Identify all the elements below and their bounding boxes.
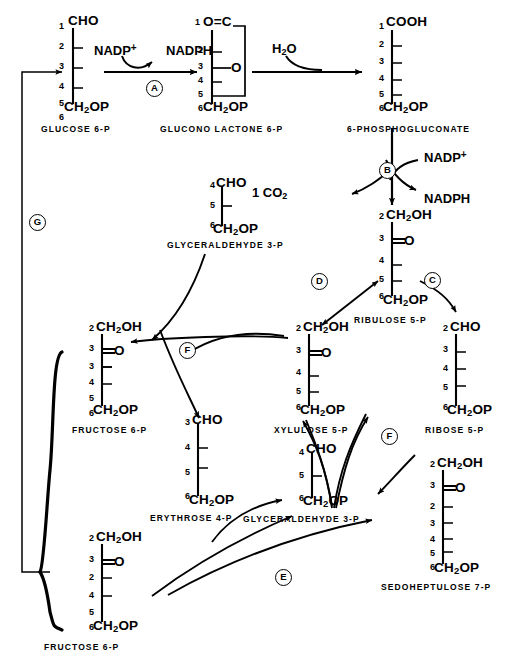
formula-top: CHO bbox=[216, 176, 247, 190]
carbon-number: 5 bbox=[82, 394, 94, 403]
carbon-number: 3 bbox=[82, 344, 94, 353]
carbon-number: 5 bbox=[289, 387, 301, 396]
carbon-number: 3 bbox=[372, 57, 384, 66]
ring-oxygen: O bbox=[231, 61, 242, 75]
carbon-number: 5 bbox=[52, 99, 64, 108]
carbon-number: 4 bbox=[178, 443, 190, 452]
carbon-number: 6 bbox=[52, 113, 64, 122]
carbon-number: 3 bbox=[289, 346, 301, 355]
carbon-number: 5 bbox=[372, 90, 384, 99]
carbon-number: 2 bbox=[372, 40, 384, 49]
carbon-number: 6 bbox=[292, 494, 304, 503]
carbon-number: 2 bbox=[82, 534, 94, 543]
carbon-number: 2 bbox=[82, 324, 94, 333]
formula-bottom: CH2OP bbox=[189, 493, 234, 507]
molecule-label: FRUCTOSE 6-P bbox=[72, 426, 147, 435]
molecule-label: 6-PHOSPHOGLUCONATE bbox=[347, 125, 470, 134]
carbon-number: 5 bbox=[82, 608, 94, 617]
carbon-number: 4 bbox=[372, 74, 384, 83]
carbon-number: 1 bbox=[52, 22, 64, 31]
carbon-number: 6 bbox=[372, 292, 384, 301]
keto-oxygen: O bbox=[114, 555, 125, 569]
enzyme-marker-b[interactable]: B bbox=[379, 162, 396, 179]
carbon-number: 6 bbox=[203, 221, 215, 230]
keto-oxygen: O bbox=[404, 234, 415, 248]
carbon-number: 3 bbox=[372, 234, 384, 243]
carbon-number: 3 bbox=[423, 519, 435, 528]
molecule-label: GLUCOSE 6-P bbox=[41, 125, 111, 134]
molecule-label: GLUCONO LACTONE 6-P bbox=[160, 125, 283, 134]
carbon-number: 5 bbox=[191, 90, 203, 99]
carbon-number: 4 bbox=[82, 591, 94, 600]
cofactor-nadph-a: NADPH bbox=[166, 44, 212, 57]
carbon-number: 5 bbox=[178, 468, 190, 477]
carbon-number: 6 bbox=[372, 104, 384, 113]
formula-bottom: CH2OP bbox=[303, 494, 348, 508]
carbon-number: 4 bbox=[423, 535, 435, 544]
carbon-number: 4 bbox=[292, 448, 304, 457]
carbon-number: 6 bbox=[82, 623, 94, 632]
carbon-number: 1 bbox=[372, 22, 384, 31]
keto-oxygen: O bbox=[114, 344, 125, 358]
enzyme-marker-f-lower[interactable]: F bbox=[381, 428, 398, 445]
formula-top: CH2OH bbox=[386, 208, 432, 222]
carbon-number: 2 bbox=[52, 42, 64, 51]
carbon-number: 5 bbox=[436, 383, 448, 392]
molecule-label: GLYCERALDEHYDE 3-P bbox=[243, 515, 360, 524]
formula-top: O=C bbox=[203, 15, 232, 29]
carbon-number: 2 bbox=[82, 573, 94, 582]
formula-bottom: CH2OP bbox=[300, 403, 345, 417]
formula-bottom: CH2OP bbox=[93, 619, 138, 633]
formula-top: CH2OH bbox=[96, 320, 142, 334]
carbon-number: 5 bbox=[372, 275, 384, 284]
formula-top: COOH bbox=[386, 15, 427, 29]
keto-oxygen: O bbox=[455, 481, 466, 495]
enzyme-marker-g[interactable]: G bbox=[29, 214, 46, 231]
formula-bottom: CH2OP bbox=[434, 561, 479, 575]
carbon-number: 6 bbox=[82, 409, 94, 418]
molecule-label: RIBOSE 5-P bbox=[425, 426, 484, 435]
formula-top: CHO bbox=[450, 320, 481, 334]
formula-bottom: CH2OP bbox=[213, 222, 258, 236]
formula-bottom: CH2OP bbox=[203, 100, 248, 114]
formula-top: CH2OH bbox=[96, 530, 142, 544]
molecule-label: FRUCTOSE 6-P bbox=[44, 643, 119, 652]
formula-top: CH2OH bbox=[437, 456, 483, 470]
carbon-number: 6 bbox=[423, 563, 435, 572]
carbon-number: 4 bbox=[372, 256, 384, 265]
molecule-label: GLYCERALDEHYDE 3-P bbox=[167, 241, 284, 250]
carbon-number: 3 bbox=[191, 62, 203, 71]
enzyme-marker-e[interactable]: E bbox=[275, 569, 292, 586]
cofactor-nadp-plus-a: NADP+ bbox=[94, 44, 137, 57]
molecule-label: XYLULOSE 5-P bbox=[274, 426, 349, 435]
formula-top: CHO bbox=[192, 413, 223, 427]
carbon-number: 4 bbox=[52, 82, 64, 91]
cofactor-nadp-plus-b: NADP+ bbox=[424, 151, 467, 164]
carbon-number: 4 bbox=[436, 364, 448, 373]
keto-oxygen: O bbox=[321, 346, 332, 360]
carbon-number: 2 bbox=[289, 324, 301, 333]
carbon-number: 5 bbox=[203, 201, 215, 210]
formula-bottom: CH2OP bbox=[64, 100, 109, 114]
enzyme-marker-d[interactable]: D bbox=[311, 273, 328, 290]
carbon-number: 4 bbox=[203, 181, 215, 190]
carbon-number: 1 bbox=[188, 18, 200, 27]
formula-bottom: CH2OP bbox=[383, 100, 428, 114]
cofactor-nadph-b: NADPH bbox=[424, 192, 470, 205]
carbon-number: 6 bbox=[289, 403, 301, 412]
enzyme-marker-f-upper[interactable]: F bbox=[179, 342, 196, 359]
enzyme-marker-a[interactable]: A bbox=[146, 80, 163, 97]
molecule-label: RIBULOSE 5-P bbox=[354, 316, 427, 325]
cofactor-carbon-dioxide: 1 CO2 bbox=[252, 186, 287, 199]
carbon-number: 2 bbox=[436, 324, 448, 333]
cofactor-water: H2O bbox=[272, 42, 297, 55]
carbon-number: 3 bbox=[52, 62, 64, 71]
carbon-number: 3 bbox=[436, 345, 448, 354]
carbon-number: 6 bbox=[178, 492, 190, 501]
molecule-label: ERYTHROSE 4-P bbox=[150, 514, 232, 523]
carbon-number: 5 bbox=[423, 549, 435, 558]
formula-bottom: CH2OP bbox=[383, 293, 428, 307]
enzyme-marker-c[interactable]: C bbox=[424, 272, 441, 289]
carbon-number: 4 bbox=[82, 378, 94, 387]
carbon-number: 3 bbox=[178, 418, 190, 427]
